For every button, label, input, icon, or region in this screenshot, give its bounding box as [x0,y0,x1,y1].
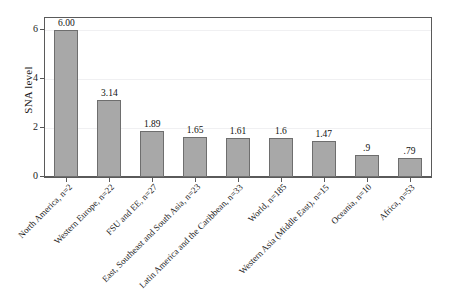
bar-value-label: 1.89 [144,119,161,129]
bar[interactable] [97,100,121,177]
bar-value-label: 3.14 [101,88,118,98]
x-tick-mark [410,178,411,182]
x-axis-category-label: Western Asia (Middle East), n=15 [237,182,331,276]
bar-slot: 1.65 [183,18,207,177]
bar[interactable] [54,30,78,177]
y-tick-label: 0 [20,170,38,181]
x-axis-category-label: Oceania, n=10 [329,182,373,226]
bar-slot: .79 [398,18,422,177]
bar[interactable] [183,137,207,177]
bar-chart: SNA level 0246 6.003.141.891.651.611.61.… [0,0,450,308]
bar[interactable] [140,131,164,177]
bar[interactable] [312,141,336,177]
y-tick-label: 2 [20,121,38,132]
bar-slot: 1.6 [269,18,293,177]
bar-value-label: 1.6 [275,126,287,136]
bar-value-label: 1.65 [187,125,204,135]
bars-layer: 6.003.141.891.651.611.61.47.9.79 [45,18,431,177]
x-axis-category-label: World, n=185 [246,182,288,224]
bar-value-label: 6.00 [58,18,75,28]
bar[interactable] [398,158,422,177]
bar-slot: 1.89 [140,18,164,177]
x-axis-category-label: Africa, n=53 [377,182,417,222]
bar-slot: 6.00 [54,18,78,177]
bar-value-label: 1.47 [315,129,332,139]
bar-slot: 3.14 [97,18,121,177]
bar[interactable] [226,138,250,177]
bar-value-label: 1.61 [230,126,247,136]
bar-slot: 1.47 [312,18,336,177]
bar-value-label: .79 [404,146,416,156]
x-tick-mark [109,178,110,182]
bar[interactable] [355,155,379,177]
bar-value-label: .9 [363,143,370,153]
bar-slot: 1.61 [226,18,250,177]
bar[interactable] [269,138,293,177]
y-tick-label: 6 [20,23,38,34]
y-tick-label: 4 [20,72,38,83]
bar-slot: .9 [355,18,379,177]
